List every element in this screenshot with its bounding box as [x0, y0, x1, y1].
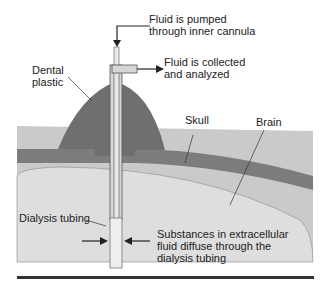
label-dialysis-tubing: Dialysis tubing	[19, 212, 90, 224]
label-skull: Skull	[185, 114, 209, 126]
pump-arrow	[117, 26, 150, 42]
outlet-tube	[112, 65, 137, 73]
label-brain: Brain	[256, 116, 282, 128]
collect-arrowhead	[156, 65, 164, 73]
bottom-rule	[17, 276, 314, 279]
label-collected: Fluid is collected and analyzed	[164, 56, 245, 80]
dialysis-tubing-shape	[110, 218, 122, 268]
pump-arrowhead	[113, 40, 121, 47]
label-pumped: Fluid is pumped through inner cannula	[149, 13, 255, 37]
label-substances: Substances in extracellular fluid diffus…	[157, 228, 288, 264]
label-dental-plastic: Dental plastic	[32, 64, 64, 88]
